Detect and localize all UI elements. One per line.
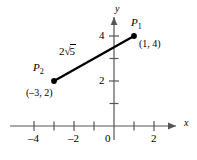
point-p2-dot xyxy=(51,78,57,84)
point-p2-letter: P xyxy=(33,61,40,73)
y-tick-label-2: 2 xyxy=(99,75,105,86)
radicand-value: 5 xyxy=(70,44,77,57)
x-axis-label: x xyxy=(184,118,188,128)
point-p2-label: P2 xyxy=(33,62,44,76)
y-axis-arrowhead xyxy=(111,17,118,25)
x-tick-label-zero: 0 xyxy=(105,133,111,144)
point-p1-label: P1 xyxy=(131,17,142,31)
x-tick-label-neg2: –2 xyxy=(68,133,79,144)
x-axis-arrowhead xyxy=(168,123,176,130)
y-tick-label-4: 4 xyxy=(99,30,105,41)
x-tick-label-pos2: 2 xyxy=(151,133,157,144)
y-axis-label: y xyxy=(115,4,119,14)
point-p2-coordinates: (–3, 2) xyxy=(26,88,53,98)
x-tick-label-neg4: –4 xyxy=(28,133,39,144)
point-p2-subscript: 2 xyxy=(40,67,44,76)
point-p1-letter: P xyxy=(131,16,138,28)
coordinate-plane-figure: x y –4 –2 0 2 4 2 P1 (1, 4) P2 (–3, 2) 2… xyxy=(0,0,197,160)
point-p1-coordinates: (1, 4) xyxy=(139,39,161,49)
point-p1-dot xyxy=(131,33,137,39)
point-p1-subscript: 1 xyxy=(138,22,142,31)
segment-p2-p1 xyxy=(54,36,134,81)
segment-distance-label: 2√5 xyxy=(59,46,76,57)
